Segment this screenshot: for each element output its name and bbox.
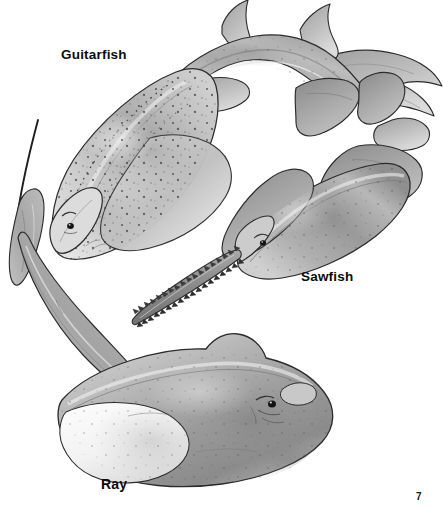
label-guitarfish: Guitarfish [61,48,127,62]
page-number: 7 [416,492,422,502]
ray-eye [268,401,276,408]
sawfish-eye [260,240,266,245]
fish-illustration-plate [0,0,444,507]
label-sawfish: Sawfish [301,270,353,284]
illustration-page: Guitarfish Sawfish Ray 7 [0,0,444,507]
label-ray: Ray [101,477,127,491]
ray-snout [280,383,316,405]
guitarfish-eye [67,223,74,229]
